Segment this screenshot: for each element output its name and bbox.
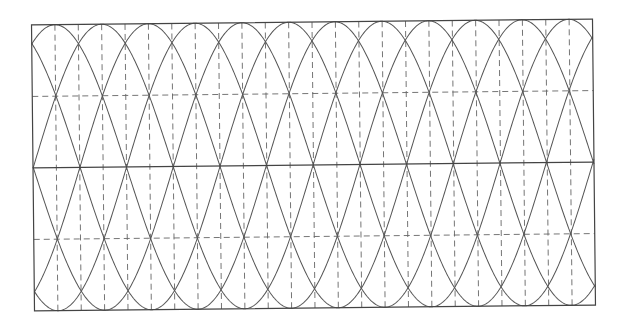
sinusoid-lattice-diagram [0,0,625,332]
